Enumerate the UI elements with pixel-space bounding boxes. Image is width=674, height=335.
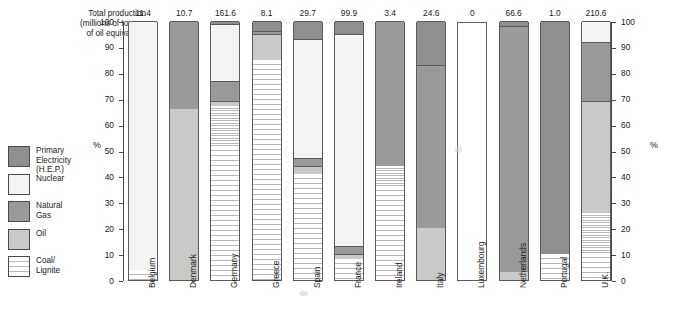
axis-tick-label-right-80: 80	[621, 69, 645, 77]
axis-tick-label-left-10: 10	[92, 251, 114, 259]
axis-tick-left-70	[119, 100, 123, 101]
stacked-bar	[128, 22, 158, 281]
axis-tick-left-60	[119, 126, 123, 127]
bar-column-netherlands: 66.6Netherlands	[499, 22, 529, 281]
legend-item-natural_gas: NaturalGas	[8, 201, 94, 223]
x-axis-label: U.K.	[581, 286, 611, 335]
axis-tick-label-right-60: 60	[621, 121, 645, 129]
axis-tick-label-left-0: 0	[92, 277, 114, 285]
axis-tick-right-70	[612, 100, 616, 101]
bar-segment-natural-gas	[294, 158, 322, 166]
bar-total-label: 161.6	[202, 8, 248, 18]
y-axis-left-title: %	[93, 140, 101, 150]
x-axis-label-text: Belgium	[147, 258, 157, 288]
legend-label-nuclear: Nuclear	[36, 174, 64, 184]
x-axis-label-text: France	[353, 262, 363, 288]
axis-tick-right-50	[612, 152, 616, 153]
bar-total-label: 29.7	[285, 8, 331, 18]
legend-label-primary_electricity: PrimaryElectricity(H.E.P.)	[36, 146, 71, 175]
bar-column-france: 99.9France	[334, 22, 364, 281]
bar-segment-nuclear	[129, 21, 157, 270]
x-axis-label-text: Luxembourg	[476, 241, 486, 288]
axis-tick-left-90	[119, 48, 123, 49]
bar-total-label: 11.4	[120, 8, 166, 18]
bar-segment-natural-gas	[211, 81, 239, 102]
y-axis-right-title: %	[650, 140, 658, 150]
axis-tick-label-left-70: 70	[92, 95, 114, 103]
axis-tick-right-20	[612, 229, 616, 230]
bar-segment-oil	[582, 101, 610, 212]
bar-total-label: 10.7	[161, 8, 207, 18]
x-axis-label-text: Germany	[229, 254, 239, 288]
x-axis-label: Denmark	[169, 286, 199, 335]
x-axis-label: Netherlands	[499, 286, 529, 335]
x-axis-label: Belgium	[128, 286, 158, 335]
legend-swatch-icon-coal_lignite	[8, 256, 30, 277]
legend-swatch-icon-nuclear	[8, 174, 30, 195]
axis-tick-label-right-30: 30	[621, 199, 645, 207]
bar-segment-primary-electricity	[294, 21, 322, 39]
bar-column-greece: 8.1Greece	[252, 22, 282, 281]
scan-artifact	[455, 146, 462, 153]
x-axis-label-text: Spain	[312, 267, 322, 288]
axis-tick-right-60	[612, 126, 616, 127]
bar-segment-primary-electricity	[500, 21, 528, 26]
stacked-bar	[416, 22, 446, 281]
x-axis-label-text: Greece	[271, 261, 281, 288]
axis-tick-label-left-20: 20	[92, 225, 114, 233]
bar-segment-oil	[211, 101, 239, 106]
bar-column-u-k: 210.6U.K.	[581, 22, 611, 281]
x-axis-label: France	[334, 286, 364, 335]
x-axis-label: Italy	[416, 286, 446, 335]
axis-tick-left-100	[119, 22, 123, 23]
bar-segment-natural-gas	[253, 31, 281, 34]
legend-swatch-icon-oil	[8, 229, 30, 250]
legend-label-oil: Oil	[36, 229, 46, 239]
axis-tick-label-right-40: 40	[621, 173, 645, 181]
legend-swatch-icon-natural_gas	[8, 201, 30, 222]
axis-tick-label-left-80: 80	[92, 69, 114, 77]
bar-segment-oil	[335, 254, 363, 259]
axis-tick-right-90	[612, 48, 616, 49]
legend-item-primary_electricity: PrimaryElectricity(H.E.P.)	[8, 146, 94, 168]
bar-segment-natural-gas	[170, 21, 198, 109]
stacked-bar	[375, 22, 405, 281]
legend-label-natural_gas: NaturalGas	[36, 201, 62, 220]
bar-segment-primary-electricity	[541, 21, 569, 254]
bar-segment-nuclear	[211, 24, 239, 81]
stacked-bar	[581, 22, 611, 281]
axis-tick-label-left-60: 60	[92, 121, 114, 129]
bar-column-germany: 161.6Germany	[210, 22, 240, 281]
bar-column-ireland: 3.4Ireland	[375, 22, 405, 281]
x-axis-label: Ireland	[375, 286, 405, 335]
axis-tick-label-right-70: 70	[621, 95, 645, 103]
x-axis-label-text: Italy	[435, 273, 445, 288]
stacked-bar	[210, 22, 240, 281]
scan-artifact	[299, 291, 308, 296]
axis-tick-label-right-100: 100	[621, 18, 645, 26]
chart-legend: PrimaryElectricity(H.E.P.)NuclearNatural…	[8, 146, 94, 284]
x-axis-label-text: Portugal	[559, 257, 569, 288]
bar-column-luxembourg: 0Luxembourg	[457, 22, 487, 281]
bar-segment-natural-gas	[500, 26, 528, 272]
x-axis-label-text: U.K.	[600, 272, 610, 288]
bar-segment-natural-gas	[335, 246, 363, 254]
axis-tick-label-left-100: 100	[92, 18, 114, 26]
plot-area: 0010102020303040405050606070708080909010…	[123, 22, 612, 281]
chart-root: Total production (millions of tonnes of …	[0, 0, 674, 335]
bar-segment-oil	[253, 34, 281, 60]
bar-segment-nuclear	[294, 39, 322, 158]
legend-item-oil: Oil	[8, 229, 94, 251]
axis-tick-label-left-30: 30	[92, 199, 114, 207]
axis-tick-right-0	[612, 281, 616, 282]
stacked-bar	[293, 22, 323, 281]
bar-total-label: 1.0	[532, 8, 578, 18]
axis-tick-left-40	[119, 177, 123, 178]
stacked-bar	[334, 22, 364, 281]
bar-column-spain: 29.7Spain	[293, 22, 323, 281]
axis-tick-label-right-50: 50	[621, 147, 645, 155]
axis-tick-label-right-10: 10	[621, 251, 645, 259]
stacked-bar	[540, 22, 570, 281]
bar-column-portugal: 1.0Portugal	[540, 22, 570, 281]
axis-tick-label-right-0: 0	[621, 277, 645, 285]
